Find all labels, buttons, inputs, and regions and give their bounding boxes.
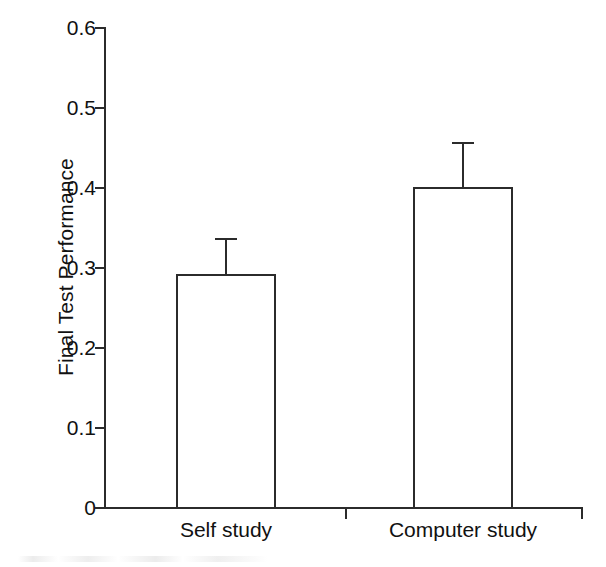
y-tick-mark-0.6 xyxy=(95,27,105,29)
y-tick-mark-0 xyxy=(95,507,105,509)
error-bar-stem-computer-study xyxy=(462,142,464,188)
x-tick-mark-center xyxy=(345,509,347,519)
y-tick-mark-0.5 xyxy=(95,107,105,109)
y-tick-label-0.6: 0.6 xyxy=(44,17,96,38)
error-bar-cap-computer-study xyxy=(452,142,474,144)
bar-self-study[interactable] xyxy=(176,274,276,507)
y-tick-label-0: 0 xyxy=(44,497,96,518)
x-tick-label-self-study: Self study xyxy=(180,519,272,540)
y-tick-label-0.3: 0.3 xyxy=(44,257,96,278)
y-tick-mark-0.1 xyxy=(95,427,105,429)
plot-area xyxy=(104,27,583,507)
y-tick-mark-0.3 xyxy=(95,267,105,269)
x-tick-mark-right xyxy=(581,509,583,519)
x-tick-label-computer-study: Computer study xyxy=(389,519,537,540)
error-bar-cap-self-study xyxy=(215,238,237,240)
bar-computer-study[interactable] xyxy=(413,187,513,507)
y-axis-tick-labels: 0.6 0.5 0.4 0.3 0.2 0.1 0 xyxy=(40,0,96,567)
y-tick-label-0.4: 0.4 xyxy=(44,177,96,198)
x-axis-tick-labels: Self study Computer study xyxy=(104,519,583,549)
y-tick-mark-0.4 xyxy=(95,187,105,189)
bar-chart-figure: Final Test Performance 0.6 0.5 0.4 0.3 0… xyxy=(0,0,606,567)
y-tick-label-0.1: 0.1 xyxy=(44,417,96,438)
y-tick-label-0.5: 0.5 xyxy=(44,97,96,118)
scan-artifact xyxy=(18,556,268,562)
y-tick-label-0.2: 0.2 xyxy=(44,337,96,358)
x-axis-line xyxy=(104,507,583,509)
y-tick-mark-0.2 xyxy=(95,347,105,349)
error-bar-stem-self-study xyxy=(225,238,227,275)
